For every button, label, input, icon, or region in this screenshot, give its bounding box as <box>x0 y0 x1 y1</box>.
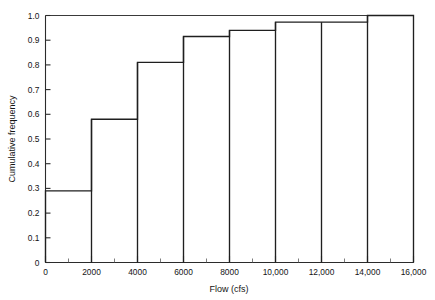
x-tick-label: 6000 <box>174 267 193 277</box>
y-tick-label: 0.9 <box>28 35 40 45</box>
y-tick-label: 0.4 <box>28 159 40 169</box>
y-axis-title: Cumulative frequency <box>7 95 17 183</box>
x-tick-label: 12,000 <box>309 267 335 277</box>
cumulative-frequency-figure: 00.10.20.30.40.50.60.70.80.91.0 02000400… <box>0 0 435 300</box>
x-tick-label: 16,000 <box>401 267 427 277</box>
x-tick-label: 10,000 <box>263 267 289 277</box>
y-tick-label: 0.3 <box>28 183 40 193</box>
y-tick-label: 0.2 <box>28 208 40 218</box>
x-tick-label: 0 <box>43 267 48 277</box>
x-axis-title: Flow (cfs) <box>210 284 249 294</box>
y-tick-label: 1.0 <box>28 11 40 21</box>
x-tick-label: 4000 <box>128 267 147 277</box>
y-tick-label: 0 <box>35 258 40 268</box>
y-tick-label: 0.7 <box>28 85 40 95</box>
cumulative-frequency-chart: 00.10.20.30.40.50.60.70.80.91.0 02000400… <box>0 0 435 300</box>
y-tick-label: 0.6 <box>28 109 40 119</box>
y-tick-label: 0.8 <box>28 60 40 70</box>
x-axis-tick-labels: 0200040006000800010,00012,00014,00016,00… <box>43 267 426 277</box>
y-tick-label: 0.1 <box>28 233 40 243</box>
chart-background <box>0 0 435 300</box>
x-tick-label: 8000 <box>220 267 239 277</box>
y-tick-label: 0.5 <box>28 134 40 144</box>
x-tick-label: 14,000 <box>355 267 381 277</box>
x-tick-label: 2000 <box>82 267 101 277</box>
